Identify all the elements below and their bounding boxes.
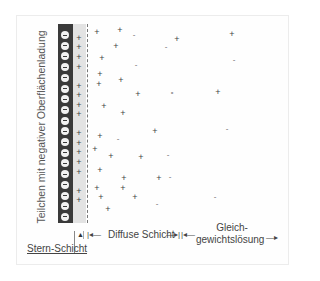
negative-surface-charge-icon — [61, 213, 69, 221]
cation-icon: + — [120, 109, 125, 118]
cation-icon: + — [138, 153, 143, 162]
negative-surface-charge-icon — [61, 181, 69, 189]
cation-icon: + — [101, 102, 106, 111]
stern-cation-icon: + — [76, 129, 81, 138]
stern-cation-icon: + — [76, 158, 81, 167]
cation-icon: + — [118, 76, 123, 85]
cation-icon: + — [156, 174, 161, 183]
cation-icon: + — [96, 80, 101, 89]
cation-icon: + — [135, 90, 140, 99]
cation-icon: + — [97, 70, 102, 79]
equilibrium-label-line2: gewichtslösung — [196, 234, 264, 245]
stern-cation-icon: + — [76, 53, 81, 62]
stern-cation-icon: + — [76, 196, 81, 205]
equilibrium-label-line1: Gleich- — [212, 222, 252, 233]
left-arrow-icon-2: |◂— — [181, 230, 195, 239]
anion-icon: - — [135, 60, 138, 69]
stern-cation-icon: + — [76, 148, 81, 157]
negative-surface-charge-icon — [61, 95, 69, 103]
anion-icon: - — [214, 192, 217, 201]
anion-icon: - — [171, 88, 174, 97]
cation-icon: + — [94, 28, 99, 37]
anion-icon: - — [226, 124, 229, 133]
negative-surface-charge-icon — [61, 192, 69, 200]
cation-icon: + — [215, 88, 220, 97]
anion-icon: - — [165, 42, 168, 51]
cation-icon: + — [105, 205, 110, 214]
negative-surface-charge-icon — [61, 170, 69, 178]
stern-cation-icon: + — [76, 91, 81, 100]
diffuse-layer-label: Diffuse Schicht — [108, 229, 175, 240]
anion-icon: - — [233, 55, 236, 64]
cation-icon: + — [152, 127, 157, 136]
anion-icon: - — [117, 134, 120, 143]
cation-icon: + — [132, 193, 137, 202]
stern-layer-label: Stern-Schicht — [27, 243, 87, 254]
negatively-charged-particle — [58, 24, 73, 223]
anion-icon: - — [169, 172, 172, 181]
negative-surface-charge-icon — [61, 42, 69, 50]
negative-surface-charge-icon — [61, 74, 69, 82]
up-arrow-icon: ▲ — [77, 231, 84, 238]
stern-cation-icon: + — [76, 43, 81, 52]
negative-surface-charge-icon — [61, 117, 69, 125]
left-arrow-icon: |◂— — [87, 230, 101, 239]
stern-layer-boundary — [87, 24, 88, 223]
right-arrow-icon: —▸| — [166, 230, 180, 239]
cation-icon: + — [121, 174, 126, 183]
negative-surface-charge-icon — [61, 138, 69, 146]
stern-cation-icon: + — [76, 110, 81, 119]
cation-icon: + — [174, 35, 179, 44]
stern-cation-icon: + — [76, 168, 81, 177]
cation-icon: + — [92, 145, 97, 154]
anion-icon: - — [167, 150, 170, 159]
negative-surface-charge-icon — [61, 202, 69, 210]
anion-icon: - — [156, 199, 159, 208]
particle-label: Teilchen mit negativer Oberflächenladung — [35, 30, 47, 223]
negative-surface-charge-icon — [61, 159, 69, 167]
anion-icon: - — [133, 30, 136, 39]
cation-icon: + — [99, 54, 104, 63]
negative-surface-charge-icon — [61, 127, 69, 135]
negative-surface-charge-icon — [61, 31, 69, 39]
cation-icon: + — [117, 26, 122, 35]
right-arrow-open-icon: —▸ — [266, 233, 278, 242]
stern-cation-icon: + — [76, 63, 81, 72]
cation-icon: + — [229, 30, 234, 39]
cation-icon: + — [113, 42, 118, 51]
negative-surface-charge-icon — [61, 85, 69, 93]
cation-icon: + — [97, 132, 102, 141]
negative-surface-charge-icon — [61, 52, 69, 60]
negative-surface-charge-icon — [61, 106, 69, 114]
cation-icon: + — [98, 193, 103, 202]
cation-icon: + — [120, 184, 125, 193]
cation-icon: + — [97, 166, 102, 175]
negative-surface-charge-icon — [61, 63, 69, 71]
cation-icon: + — [108, 152, 113, 161]
negative-surface-charge-icon — [61, 149, 69, 157]
